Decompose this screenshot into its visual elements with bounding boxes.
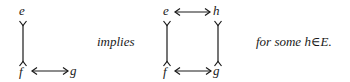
node-e: e: [163, 3, 169, 18]
vertical-arrow-e-f: [20, 21, 27, 66]
node-h: h: [213, 3, 220, 18]
implication-diagram: e f g implies e h: [0, 0, 350, 82]
double-arrow-e-h: [175, 9, 210, 16]
right-diagram: e h f g: [163, 3, 222, 79]
node-f: f: [163, 64, 169, 79]
node-g: g: [70, 63, 77, 78]
implies-text: implies: [97, 34, 135, 49]
double-arrow-f-g: [32, 68, 68, 75]
left-diagram: e f g: [19, 3, 77, 79]
node-f: f: [19, 64, 25, 79]
vertical-arrow-e-f: [164, 21, 171, 66]
condition-text: for some h∈E.: [256, 34, 332, 49]
node-g: g: [213, 63, 220, 78]
vertical-arrow-h-g: [215, 21, 222, 66]
node-e: e: [19, 3, 25, 18]
double-arrow-f-g: [175, 68, 211, 75]
